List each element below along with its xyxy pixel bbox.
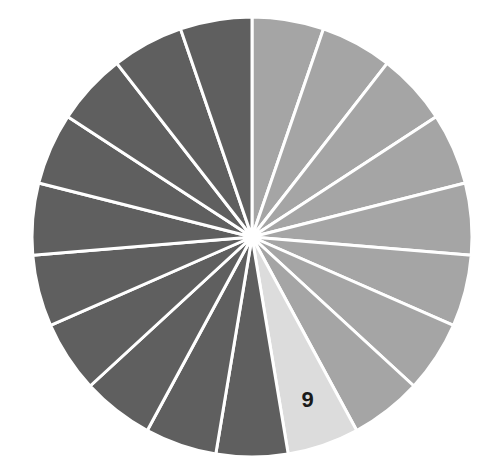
pie-slices	[32, 17, 472, 457]
pie-chart: 9	[0, 0, 497, 471]
pie-center	[246, 231, 258, 243]
slice-label-9: 9	[302, 387, 314, 412]
